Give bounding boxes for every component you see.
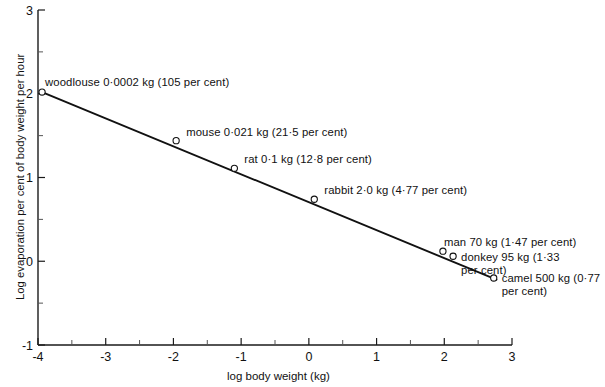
x-tick-label: -4: [32, 350, 43, 364]
point-label-camel: camel 500 kg (0·77 per cent): [502, 272, 605, 297]
data-point-woodlouse[interactable]: [39, 89, 45, 95]
data-point-rabbit[interactable]: [311, 196, 317, 202]
data-point-mouse[interactable]: [173, 138, 179, 144]
x-tick-label: 0: [305, 350, 312, 364]
x-tick-label: -3: [100, 350, 111, 364]
x-tick-label: 2: [441, 350, 448, 364]
data-point-man[interactable]: [440, 248, 446, 254]
y-tick-label: 0: [26, 255, 33, 269]
y-tick-label: 1: [26, 171, 33, 185]
point-label-rabbit: rabbit 2·0 kg (4·77 per cent): [324, 184, 467, 197]
x-tick-label: 3: [509, 350, 516, 364]
y-tick-label: -1: [22, 339, 33, 353]
point-label-man: man 70 kg (1·47 per cent): [444, 236, 576, 249]
y-tick-label: 3: [26, 4, 33, 18]
data-point-rat[interactable]: [231, 165, 237, 171]
point-label-mouse: mouse 0·021 kg (21·5 per cent): [186, 126, 347, 139]
y-axis-title: Log evaporation per cent of body weight …: [14, 54, 26, 300]
x-tick-label: -2: [168, 350, 179, 364]
y-tick-label: 2: [26, 87, 33, 101]
data-point-donkey[interactable]: [450, 253, 456, 259]
x-tick-label: 1: [373, 350, 380, 364]
point-label-woodlouse: woodlouse 0·0002 kg (105 per cent): [45, 76, 229, 89]
x-axis-title: log body weight (kg): [227, 370, 330, 382]
x-tick-label: -1: [236, 350, 247, 364]
point-label-rat: rat 0·1 kg (12·8 per cent): [244, 153, 372, 166]
